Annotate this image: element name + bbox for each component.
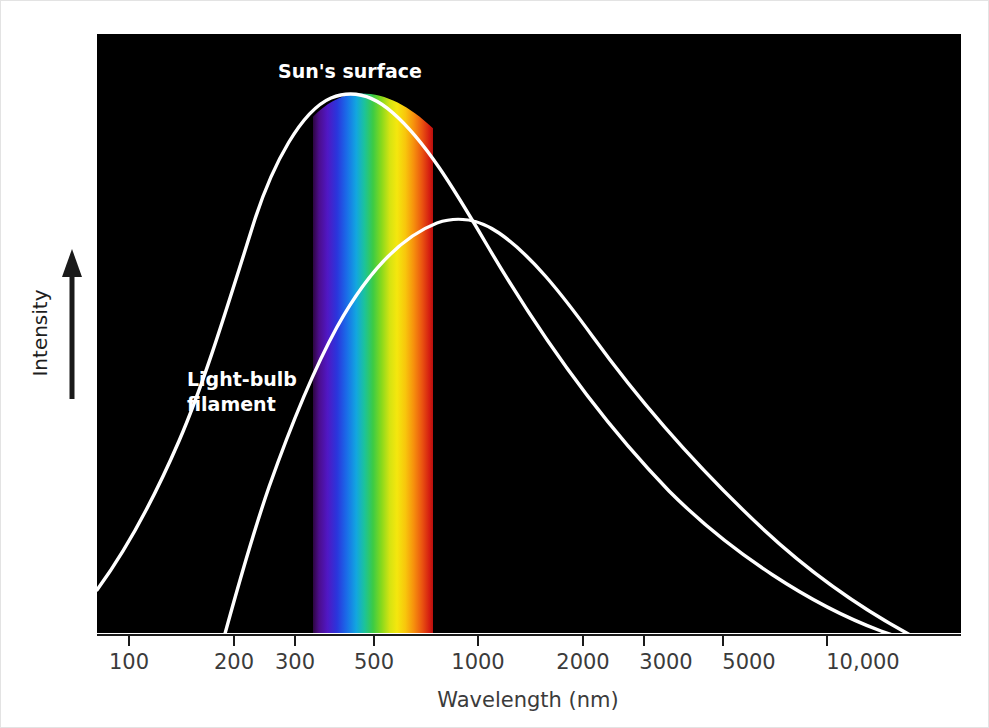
x-tick-label-3000: 3000 <box>639 650 692 674</box>
chart-svg: Sun's surface Light-bulb filament 100 20… <box>1 1 989 728</box>
x-tick-label-2000: 2000 <box>556 650 609 674</box>
visible-spectrum-band <box>313 34 433 633</box>
x-axis-title: Wavelength (nm) <box>437 688 618 712</box>
label-light-bulb-line1: Light-bulb <box>187 368 297 390</box>
x-tick-label-200: 200 <box>214 650 254 674</box>
y-axis-arrow-icon <box>62 249 82 399</box>
y-axis-title: Intensity <box>28 289 52 376</box>
x-axis-ticks <box>129 635 827 646</box>
x-tick-label-100: 100 <box>109 650 149 674</box>
x-tick-label-5000: 5000 <box>722 650 775 674</box>
x-tick-label-300: 300 <box>275 650 315 674</box>
blackbody-spectrum-chart: Sun's surface Light-bulb filament 100 20… <box>1 1 989 728</box>
figure-page: Sun's surface Light-bulb filament 100 20… <box>0 0 989 728</box>
plot-background <box>97 34 961 633</box>
label-sun-surface: Sun's surface <box>278 60 422 82</box>
label-light-bulb-line2: filament <box>187 393 276 415</box>
x-tick-label-10000: 10,000 <box>826 650 899 674</box>
x-tick-label-1000: 1000 <box>451 650 504 674</box>
x-tick-label-500: 500 <box>354 650 394 674</box>
